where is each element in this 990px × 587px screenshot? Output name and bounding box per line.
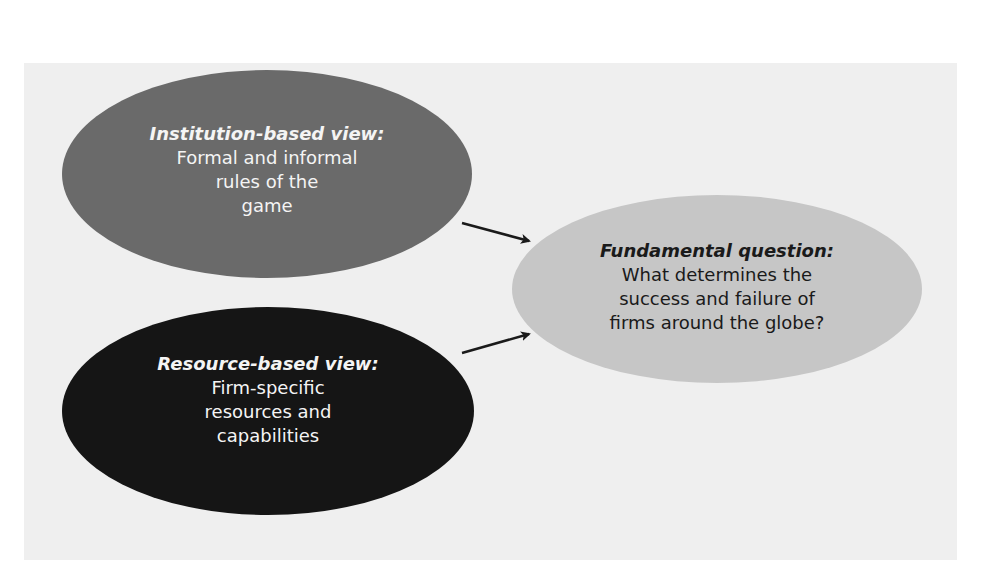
diagram-stage: Institution-based view: Formal and infor…	[0, 0, 990, 587]
fundamental-question-line-1: What determines the	[622, 263, 812, 287]
fundamental-question-line-3: firms around the globe?	[610, 311, 825, 335]
institution-based-view-line-2: rules of the	[216, 170, 319, 194]
institution-based-view-node: Institution-based view: Formal and infor…	[67, 120, 467, 220]
institution-based-view-line-1: Formal and informal	[176, 146, 357, 170]
institution-based-view-title: Institution-based view:	[150, 122, 385, 146]
resource-based-view-title: Resource-based view:	[157, 352, 378, 376]
fundamental-question-title: Fundamental question:	[600, 239, 834, 263]
resource-based-view-line-3: capabilities	[217, 424, 319, 448]
resource-based-view-line-1: Firm-specific	[211, 376, 324, 400]
resource-based-view-line-2: resources and	[205, 400, 332, 424]
fundamental-question-line-2: success and failure of	[619, 287, 815, 311]
institution-based-view-line-3: game	[241, 194, 292, 218]
fundamental-question-node: Fundamental question: What determines th…	[517, 237, 917, 337]
resource-based-view-node: Resource-based view: Firm-specific resou…	[68, 345, 468, 455]
